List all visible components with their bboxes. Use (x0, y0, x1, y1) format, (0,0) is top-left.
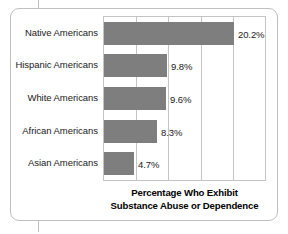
bar-value-label: 4.7% (138, 158, 159, 169)
chart-plot-area: 20.2%9.8%9.6%8.3%4.7% (103, 16, 266, 181)
category-label: White Americans (27, 86, 98, 109)
bar-row: 9.6% (104, 87, 265, 110)
chart-axis-title: Percentage Who Exhibit Substance Abuse o… (103, 186, 266, 212)
axis-title-line-1: Percentage Who Exhibit (103, 186, 266, 199)
bar-value-label: 20.2% (238, 28, 264, 39)
bar-row: 8.3% (104, 120, 265, 143)
category-label: Asian Americans (28, 151, 98, 174)
bar (104, 54, 167, 77)
bar (104, 120, 157, 143)
category-label: Hispanic Americans (15, 53, 98, 76)
category-axis-labels: Native AmericansHispanic AmericansWhite … (0, 16, 98, 181)
bar-row: 4.7% (104, 152, 265, 175)
bar-row: 20.2% (104, 22, 265, 45)
frame-connector-tick-top (38, 0, 39, 9)
bar-value-label: 9.8% (171, 60, 192, 71)
frame-connector-tick-bottom (38, 221, 39, 232)
bar-value-label: 8.3% (161, 126, 182, 137)
bar-row: 9.8% (104, 54, 265, 77)
axis-title-line-2: Substance Abuse or Dependence (103, 199, 266, 212)
bars-layer: 20.2%9.8%9.6%8.3%4.7% (104, 17, 265, 180)
category-label: African Americans (22, 119, 98, 142)
bar-value-label: 9.6% (170, 93, 191, 104)
bar (104, 87, 166, 110)
bar (104, 22, 234, 45)
bar (104, 152, 134, 175)
category-label: Native Americans (25, 21, 98, 44)
